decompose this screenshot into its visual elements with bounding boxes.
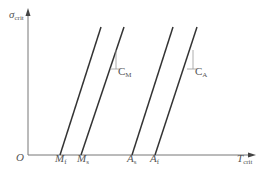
transformation-diagram [0,0,262,170]
origin-label: O [16,152,24,163]
cm-label-sub: M [125,71,131,79]
cm-label: CM [118,66,132,79]
as-label-main: A [127,152,134,164]
as-label: As [127,153,136,166]
as-label-sub: s [134,158,137,166]
ca-label-sub: A [202,71,207,79]
ms-label-sub: s [86,158,89,166]
af-label-sub: f [157,158,159,166]
mf-label-main: M [55,152,64,164]
mf-line [60,27,101,155]
x-axis-label: Tcrit [237,153,252,166]
as-line [132,27,173,155]
ca-label: CA [195,66,207,79]
af-label-main: A [150,152,157,164]
af-line [155,27,197,155]
x-axis-label-sub: crit [243,158,252,166]
origin-text: O [16,151,24,163]
y-axis-arrow-icon [26,8,31,16]
ms-label-main: M [77,152,86,164]
mf-label: Mf [55,153,67,166]
af-label: Af [150,153,159,166]
ms-label: Ms [77,153,89,166]
y-axis-label: σcrit [9,9,24,22]
ms-line [81,27,124,155]
mf-label-sub: f [64,158,66,166]
y-axis-label-sub: crit [14,14,23,22]
